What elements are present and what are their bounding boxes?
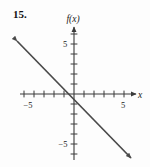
y-axis-label: f(x) <box>66 14 79 25</box>
x-axis-label: x <box>137 90 143 100</box>
x-tick-label-neg5: −5 <box>23 100 32 110</box>
coordinate-plane-plot: −5 5 x 5 −5 f(x) <box>0 0 150 167</box>
y-tick-label-5: 5 <box>63 39 67 49</box>
y-tick-label-neg5: −5 <box>58 139 67 149</box>
figure-15: 15. −5 <box>0 0 150 167</box>
x-tick-label-5: 5 <box>121 100 125 110</box>
